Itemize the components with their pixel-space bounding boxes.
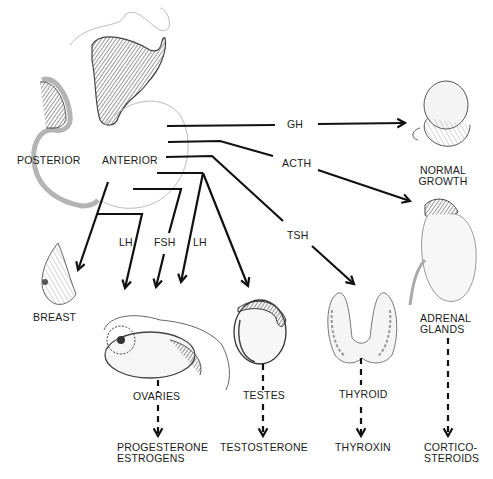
acth-line: [168, 141, 273, 156]
testosterone-label: TESTOSTERONE: [220, 442, 308, 453]
lh-left-line: [97, 214, 142, 288]
thyroid-label: THYROID: [339, 389, 388, 400]
gh-label: GH: [287, 119, 303, 130]
testes-label: TESTES: [243, 390, 285, 401]
gh-arrow: [318, 123, 405, 124]
tsh-line: [166, 156, 283, 221]
adrenal-kidney-icon: [410, 199, 476, 305]
progesterone-estrogens-label: PROGESTERONE ESTROGENS: [117, 442, 208, 464]
breast-icon: [42, 243, 76, 304]
breast-line: [78, 182, 108, 270]
diagram-canvas: [0, 0, 493, 479]
pituitary-gland-icon: [34, 8, 188, 208]
fsh-arrow: [156, 254, 164, 287]
acth-arrow: [318, 170, 410, 201]
thyroid-icon: [328, 293, 397, 363]
ovary-icon: [104, 316, 229, 390]
anterior-label: ANTERIOR: [102, 155, 158, 166]
normal-growth-label: NORMAL GROWTH: [408, 165, 478, 187]
tsh-label: TSH: [287, 230, 309, 241]
ovaries-label: OVARIES: [133, 391, 180, 402]
fsh-label: FSH: [154, 237, 176, 248]
lh-right-arrow: [181, 173, 203, 282]
gh-line: [167, 125, 275, 126]
testes-arrow: [203, 173, 248, 286]
corticosteroids-label: CORTICO- STEROIDS: [424, 442, 479, 464]
thyroxin-label: THYROXIN: [335, 442, 391, 453]
adrenal-glands-label: ADRENAL GLANDS: [420, 313, 471, 335]
tsh-arrow: [312, 246, 354, 284]
fetus-icon: [413, 81, 470, 146]
acth-label: ACTH: [282, 158, 311, 169]
lh-left-label: LH: [119, 237, 133, 248]
pituitary-hormone-diagram: POSTERIOR ANTERIOR GH ACTH TSH LH FSH LH…: [0, 0, 493, 479]
breast-label: BREAST: [33, 312, 76, 323]
posterior-label: POSTERIOR: [17, 155, 81, 166]
testis-icon: [234, 300, 286, 364]
lh-right-label: LH: [193, 237, 207, 248]
